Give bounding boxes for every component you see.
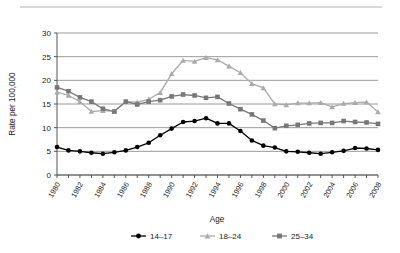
data-point-marker <box>215 121 220 126</box>
chart-legend: 14–1718–2425–34 <box>131 232 314 241</box>
data-point-marker <box>169 126 174 131</box>
x-tick-label: 1996 <box>230 181 246 200</box>
series-18-24 <box>54 55 381 114</box>
data-point-marker <box>89 99 94 104</box>
data-point-marker <box>192 119 197 124</box>
data-point-marker <box>66 89 71 94</box>
data-point-marker <box>364 120 369 125</box>
data-point-marker <box>277 234 282 239</box>
data-point-marker <box>307 150 312 155</box>
data-point-marker <box>238 129 243 134</box>
data-point-marker <box>54 89 60 94</box>
legend-label: 25–34 <box>291 232 314 241</box>
data-point-marker <box>261 118 266 123</box>
data-point-marker <box>123 148 128 153</box>
data-point-marker <box>353 146 358 151</box>
data-point-marker <box>307 121 312 126</box>
y-axis-title: Rate per 100,000 <box>8 72 17 136</box>
data-point-marker <box>78 149 83 154</box>
data-point-marker <box>376 148 381 153</box>
data-point-marker <box>250 112 255 117</box>
y-tick-label: 0 <box>47 171 52 180</box>
x-tick-label: 1998 <box>253 181 269 200</box>
data-point-marker <box>330 150 335 155</box>
data-point-marker <box>135 145 140 150</box>
data-point-marker <box>146 141 151 146</box>
y-tick-label: 20 <box>42 76 51 85</box>
data-point-marker <box>226 63 232 68</box>
legend-label: 18–24 <box>219 232 242 241</box>
data-point-marker <box>284 123 289 128</box>
data-point-marker <box>364 146 369 151</box>
data-point-marker <box>135 102 140 107</box>
data-series-layer <box>54 55 381 156</box>
x-axis-tick-labels: 1980198219841986198819901992199419961998… <box>46 181 383 200</box>
data-point-marker <box>169 94 174 99</box>
x-tick-label: 1988 <box>138 181 154 200</box>
data-point-marker <box>181 92 186 97</box>
data-point-marker <box>353 120 358 125</box>
x-tick-label: 1982 <box>69 181 85 200</box>
data-point-marker <box>273 126 278 131</box>
data-point-marker <box>261 143 266 148</box>
x-tick-label: 2008 <box>367 181 383 200</box>
data-point-marker <box>136 234 141 239</box>
x-tick-label: 2002 <box>298 181 314 200</box>
data-point-marker <box>318 121 323 126</box>
x-tick-label: 1992 <box>184 181 200 200</box>
data-point-marker <box>295 150 300 155</box>
data-point-marker <box>158 98 163 103</box>
y-tick-label: 30 <box>42 29 51 38</box>
x-axis-title: Age <box>210 215 225 224</box>
data-point-marker <box>341 149 346 154</box>
data-point-marker <box>284 149 289 154</box>
data-point-marker <box>273 145 278 150</box>
data-point-marker <box>66 148 71 153</box>
data-point-marker <box>101 151 106 156</box>
data-point-marker <box>330 121 335 126</box>
data-point-marker <box>78 95 83 100</box>
data-point-marker <box>112 150 117 155</box>
data-point-marker <box>215 95 220 100</box>
line-chart: 051015202530 198019821984198619881990199… <box>0 0 400 253</box>
top-divider-rule <box>20 6 382 8</box>
data-point-marker <box>238 70 244 75</box>
x-tick-label: 1990 <box>161 181 177 200</box>
data-point-marker <box>227 101 232 106</box>
data-point-marker <box>295 123 300 128</box>
data-point-marker <box>192 93 197 98</box>
data-point-marker <box>55 85 60 90</box>
data-point-marker <box>204 96 209 101</box>
legend-item[interactable]: 14–17 <box>131 232 173 241</box>
legend-item[interactable]: 18–24 <box>200 232 242 241</box>
data-point-marker <box>89 150 94 155</box>
data-point-marker <box>55 145 60 150</box>
data-point-marker <box>101 106 106 111</box>
data-point-marker <box>146 99 151 104</box>
x-tick-label: 1986 <box>115 181 131 200</box>
data-point-marker <box>181 120 186 125</box>
x-tick-label: 2000 <box>275 181 291 200</box>
data-point-marker <box>376 122 381 127</box>
y-tick-label: 25 <box>42 53 51 62</box>
x-tick-label: 2004 <box>321 181 337 200</box>
y-tick-label: 10 <box>42 124 51 133</box>
data-point-marker <box>157 90 163 95</box>
y-tick-label: 5 <box>47 147 52 156</box>
data-point-marker <box>238 107 243 112</box>
data-point-marker <box>123 99 128 104</box>
legend-item[interactable]: 25–34 <box>272 232 314 241</box>
data-point-marker <box>112 109 117 114</box>
legend-label: 14–17 <box>150 232 173 241</box>
x-tick-label: 1980 <box>46 181 62 200</box>
data-point-marker <box>77 99 83 104</box>
data-point-marker <box>341 119 346 124</box>
x-tick-label: 2006 <box>344 181 360 200</box>
data-point-marker <box>250 138 255 143</box>
x-tick-label: 1994 <box>207 181 223 200</box>
y-axis-tick-labels: 051015202530 <box>42 29 51 180</box>
data-point-marker <box>158 133 163 138</box>
data-point-marker <box>204 116 209 121</box>
data-point-marker <box>227 121 232 126</box>
x-tick-label: 1984 <box>92 181 108 200</box>
